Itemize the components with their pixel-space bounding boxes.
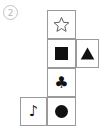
circle-filled-icon <box>55 105 68 118</box>
triangle-filled-icon <box>80 47 95 60</box>
music-note-icon: ♪ <box>29 104 39 119</box>
net-cell-r2c2[interactable] <box>47 39 76 68</box>
star-outline-icon <box>53 16 70 33</box>
net-cell-r2c3[interactable] <box>76 39 99 68</box>
net-cell-r3c2[interactable]: ♣ <box>47 68 76 97</box>
figure-index-badge: 2 <box>3 5 18 20</box>
club-suit-icon: ♣ <box>54 75 68 91</box>
net-cell-r4c1[interactable]: ♪ <box>20 97 47 126</box>
net-cell-r4c2[interactable] <box>47 97 76 126</box>
figure-canvas: 2 ♣ ♪ <box>0 0 109 131</box>
net-cell-r1c2[interactable] <box>47 10 76 39</box>
square-filled-icon <box>55 47 68 60</box>
